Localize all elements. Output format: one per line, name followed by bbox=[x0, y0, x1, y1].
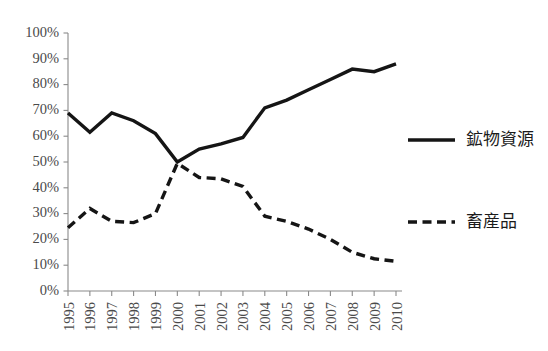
x-tick-label: 2008 bbox=[345, 302, 361, 331]
x-tick-label: 2010 bbox=[389, 302, 405, 331]
x-tick-label: 2001 bbox=[192, 302, 208, 331]
x-tick-label: 2000 bbox=[170, 302, 186, 331]
y-tick-label: 10% bbox=[32, 256, 59, 272]
y-tick-label: 60% bbox=[32, 127, 59, 143]
y-tick-label: 30% bbox=[32, 204, 59, 220]
x-tick-label: 1996 bbox=[82, 302, 98, 331]
x-tick-label: 2009 bbox=[367, 302, 383, 331]
y-tick-label: 70% bbox=[32, 101, 59, 117]
line-chart: 0%10%20%30%40%50%60%70%80%90%100% 199519… bbox=[0, 0, 548, 351]
legend-label-2: 畜産品 bbox=[466, 212, 517, 231]
x-axis: 1995199619971998199920002001200220032004… bbox=[61, 291, 405, 331]
legend-label-1: 鉱物資源 bbox=[466, 130, 534, 149]
x-tick-label: 1998 bbox=[126, 302, 142, 331]
x-tick-label: 2002 bbox=[214, 302, 230, 331]
series-line-2 bbox=[68, 163, 396, 261]
y-tick-label: 20% bbox=[32, 230, 59, 246]
y-tick-label: 80% bbox=[32, 75, 59, 91]
series-layer bbox=[68, 64, 396, 261]
chart-legend: 鉱物資源畜産品 bbox=[408, 130, 534, 231]
series-line-1 bbox=[68, 64, 396, 162]
x-tick-label: 2004 bbox=[257, 301, 273, 331]
y-tick-label: 50% bbox=[32, 153, 59, 169]
x-tick-label: 2005 bbox=[279, 302, 295, 331]
y-tick-label: 0% bbox=[40, 282, 59, 298]
y-tick-label: 90% bbox=[32, 50, 59, 66]
x-tick-label: 2006 bbox=[301, 302, 317, 331]
x-tick-label: 2003 bbox=[235, 302, 251, 331]
x-tick-label: 1997 bbox=[104, 302, 120, 331]
y-axis: 0%10%20%30%40%50%60%70%80%90%100% bbox=[25, 24, 68, 298]
y-tick-label: 100% bbox=[25, 24, 59, 40]
y-tick-label: 40% bbox=[32, 179, 59, 195]
x-tick-label: 2007 bbox=[323, 302, 339, 331]
x-tick-label: 1999 bbox=[148, 302, 164, 331]
chart-canvas: 0%10%20%30%40%50%60%70%80%90%100% 199519… bbox=[0, 0, 548, 351]
x-tick-label: 1995 bbox=[61, 302, 77, 331]
